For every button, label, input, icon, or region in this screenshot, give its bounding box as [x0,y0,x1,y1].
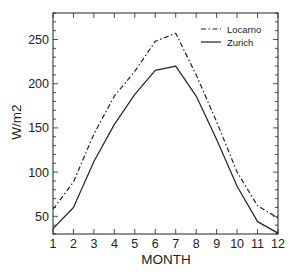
y-tick-label: 50 [35,210,49,224]
x-tick-label: 3 [90,237,97,251]
x-tick-label: 9 [213,237,220,251]
x-tick-label: 12 [271,237,285,251]
y-tick-label: 250 [28,33,49,47]
x-tick-label: 8 [193,237,200,251]
x-tick-label: 1 [50,237,57,251]
series-line-locarno [53,33,278,218]
x-axis-title: MONTH [141,252,191,267]
x-tick-label: 6 [152,237,159,251]
legend-label-zurich: Zurich [227,37,253,48]
y-tick-label: 150 [28,121,49,135]
x-tick-label: 7 [172,237,179,251]
y-axis-title: W/m2 [9,104,24,139]
line-chart: 50100150200250 123456789101112 LocarnoZu… [0,0,296,276]
x-tick-label: 11 [251,237,264,251]
y-tick-label: 200 [28,77,49,91]
chart: 50100150200250 123456789101112 LocarnoZu… [0,0,296,276]
series-layer [53,33,278,233]
x-axis: 123456789101112 [50,13,285,251]
legend-label-locarno: Locarno [227,24,261,35]
x-tick-label: 10 [230,237,244,251]
x-tick-label: 5 [131,237,138,251]
x-tick-label: 2 [70,237,77,251]
legend: LocarnoZurich [201,24,261,48]
x-tick-label: 4 [111,237,118,251]
y-tick-label: 100 [28,166,49,180]
